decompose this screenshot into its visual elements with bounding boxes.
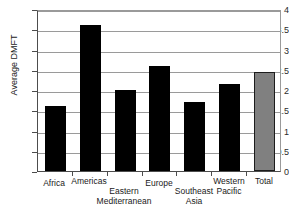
bars-layer xyxy=(38,11,280,171)
bar-europe xyxy=(149,66,170,171)
x-axis-tick-mark xyxy=(107,172,108,176)
bar-eastern-mediterranean xyxy=(115,90,136,171)
bar-western-pacific xyxy=(219,84,240,171)
x-axis-tick-mark xyxy=(142,172,143,176)
bar-total xyxy=(254,72,275,171)
x-axis-label-line: Total xyxy=(255,176,273,186)
bar-americas xyxy=(80,25,101,171)
y-axis-tick-mark xyxy=(32,172,37,173)
x-axis-label-line: Southeast xyxy=(175,186,213,196)
bar-africa xyxy=(45,106,66,171)
bar-chart-figure: Average DMFT 00.511.522.533.54 AfricaAme… xyxy=(0,0,289,209)
x-axis-label-line: Western xyxy=(213,176,245,186)
bar-southeast-asia xyxy=(184,102,205,171)
x-axis-label-line: Africa xyxy=(43,178,65,188)
x-axis-label-africa: Africa xyxy=(43,178,65,188)
x-axis-label-americas: Americas xyxy=(71,176,106,186)
x-axis-label-line: Asia xyxy=(175,196,213,206)
x-axis-label-western-pacific: WesternPacific xyxy=(213,176,245,196)
x-axis-tick-mark xyxy=(246,172,247,176)
x-axis-label-line: Pacific xyxy=(213,186,245,196)
x-axis-label-line: Americas xyxy=(71,176,106,186)
x-axis-label-total: Total xyxy=(255,176,273,186)
x-axis-label-southeast-asia: SoutheastAsia xyxy=(175,186,213,206)
x-axis-label-europe: Europe xyxy=(145,178,172,188)
x-axis-label-line: Eastern xyxy=(97,186,152,196)
x-axis-label-eastern-mediterranean: EasternMediterranean xyxy=(97,186,152,206)
x-axis-tick-mark xyxy=(176,172,177,176)
x-axis-tick-mark xyxy=(211,172,212,176)
x-axis-label-line: Mediterranean xyxy=(97,196,152,206)
x-axis-label-line: Europe xyxy=(145,178,172,188)
y-axis-title: Average DMFT xyxy=(9,5,19,125)
plot-area xyxy=(37,10,281,172)
